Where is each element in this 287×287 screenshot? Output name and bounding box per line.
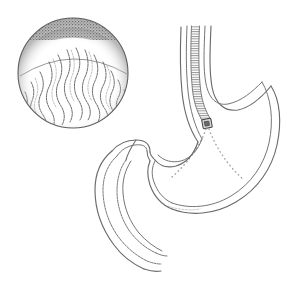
illustration-canvas bbox=[0, 0, 287, 287]
endoscopy-figure bbox=[0, 0, 287, 287]
endoscope-camera-tip bbox=[202, 118, 213, 129]
lower-rim-shading bbox=[18, 18, 128, 128]
